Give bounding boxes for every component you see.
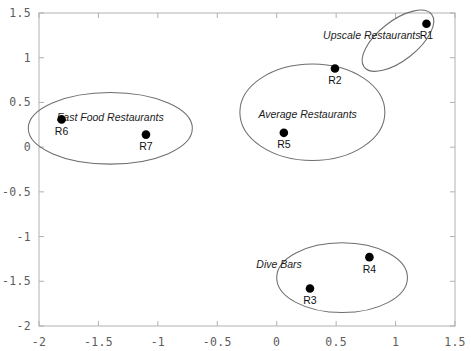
scatter-plot-figure: -2-1.5-1-0.500.511.5 1.510.50-0.5-1-1.5-… — [0, 0, 471, 351]
y-axis-ticks: 1.510.50-0.5-1-1.5-2 — [2, 6, 455, 333]
cluster-label: Average Restaurants — [257, 108, 357, 120]
data-point-marker — [365, 253, 374, 262]
y-tick-label: -1.5 — [2, 274, 31, 288]
data-point-marker — [331, 64, 340, 73]
data-point-label: R5 — [277, 138, 291, 150]
plot-frame — [39, 13, 455, 326]
data-point-marker — [306, 284, 315, 293]
y-tick-label: -0.5 — [2, 185, 31, 199]
y-tick-label: 1.5 — [9, 6, 31, 20]
y-tick-label: -2 — [17, 319, 31, 333]
x-tick-label: 1 — [392, 335, 399, 349]
cluster-annotations: Upscale RestaurantsAverage RestaurantsFa… — [57, 29, 421, 270]
x-tick-label: -2 — [32, 335, 46, 349]
y-tick-label: 1 — [24, 51, 31, 65]
data-point-marker — [422, 19, 431, 28]
data-points: R1R2R3R4R5R6R7 — [55, 19, 433, 306]
data-point-marker — [142, 130, 151, 139]
x-tick-label: -1 — [151, 335, 165, 349]
data-point-marker — [57, 115, 66, 124]
cluster-label: Dive Bars — [256, 258, 302, 270]
data-point-marker — [280, 129, 289, 138]
data-point-label: R3 — [303, 294, 317, 306]
x-tick-label: 0.5 — [325, 335, 347, 349]
x-tick-label: -1.5 — [84, 335, 113, 349]
cluster-ellipse — [277, 243, 408, 313]
plot-frame-group — [39, 13, 455, 326]
x-tick-label: -0.5 — [203, 335, 232, 349]
cluster-ellipse — [28, 93, 192, 165]
data-point-label: R7 — [139, 140, 153, 152]
x-axis-ticks: -2-1.5-1-0.500.511.5 — [32, 13, 466, 349]
data-point-label: R2 — [328, 74, 342, 86]
y-tick-label: 0 — [24, 140, 31, 154]
cluster-ellipses — [28, 0, 443, 313]
data-point-label: R1 — [420, 29, 434, 41]
x-tick-label: 0 — [273, 335, 280, 349]
plot-canvas: -2-1.5-1-0.500.511.5 1.510.50-0.5-1-1.5-… — [0, 0, 471, 351]
y-tick-label: -1 — [17, 230, 31, 244]
data-point-label: R6 — [55, 125, 69, 137]
cluster-label: Upscale Restaurants — [323, 29, 421, 41]
data-point-label: R4 — [363, 263, 377, 275]
x-tick-label: 1.5 — [444, 335, 466, 349]
y-tick-label: 0.5 — [9, 95, 31, 109]
cluster-label: Fast Food Restaurants — [57, 111, 165, 123]
